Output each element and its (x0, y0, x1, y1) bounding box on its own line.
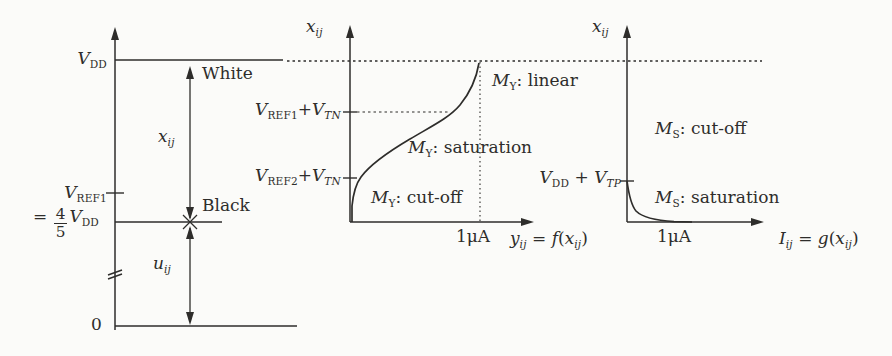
white-label: White (202, 64, 253, 84)
zero-label: 0 (91, 315, 102, 335)
x-range-arrowhead-down (186, 207, 194, 220)
transistor-regions-figure: VDD VREF1 = 45VDD 0 White Black xij uij … (0, 0, 892, 356)
vdd-vtp-label: VDD + VTP (540, 168, 621, 188)
vref1-label: VREF1 (64, 183, 107, 203)
middle-x-axis-arrowhead (521, 218, 534, 226)
u-ij-arrow-label: uij (153, 254, 171, 274)
u-range-arrowhead-up (186, 226, 194, 239)
ms-cutoff-label: MS: cut-off (655, 119, 746, 139)
my-linear-label: MY: linear (492, 71, 578, 91)
vref1-vtn-label: VREF1+VTN (255, 100, 341, 120)
right-x-axis-arrowhead (751, 218, 764, 226)
middle-x-axis-label: yij = f(xij) (510, 229, 588, 249)
left-y-axis-arrowhead (111, 27, 119, 40)
four-fifths-vdd-label: = 45VDD (33, 206, 99, 240)
vdd-label: VDD (77, 49, 107, 69)
right-y-axis-label: xij (592, 17, 609, 37)
my-cutoff-label: MY: cut-off (371, 188, 462, 208)
right-x-axis-label: Iij = g(xij) (779, 229, 859, 249)
diagram-canvas (0, 0, 892, 356)
x-range-arrowhead-up (186, 66, 194, 79)
my-saturation-label: MY: saturation (408, 138, 532, 158)
middle-current-tick-label: 1μA (456, 227, 490, 247)
middle-y-axis-label: xij (306, 17, 323, 37)
x-ij-arrow-label: xij (158, 127, 175, 147)
ms-saturation-label: MS: saturation (655, 188, 779, 208)
middle-y-axis-arrowhead (346, 25, 354, 38)
u-range-arrowhead-down (186, 312, 194, 325)
black-label: Black (202, 196, 250, 216)
right-y-axis-arrowhead (623, 25, 631, 38)
right-current-tick-label: 1μA (657, 227, 691, 247)
vref2-vtn-label: VREF2+VTN (255, 166, 341, 186)
